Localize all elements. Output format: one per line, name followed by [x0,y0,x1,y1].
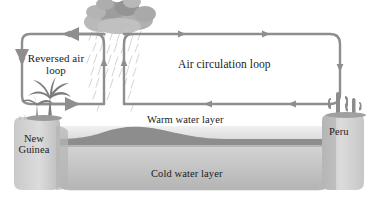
air-circulation-loop-arrow [124,34,340,104]
walker-circulation-diagram: Reversed air loop Air circulation loop W… [0,0,375,209]
diagram-canvas [0,0,375,209]
palm-tree-icon [21,77,71,121]
rain-cloud-icon [84,0,156,34]
ocean-cold-layer [56,140,332,190]
landmass-peru [322,114,364,190]
reversed-loop-down-arrowhead [19,58,26,66]
rainfall-icon [87,30,141,111]
landmass-new-guinea [14,117,68,190]
